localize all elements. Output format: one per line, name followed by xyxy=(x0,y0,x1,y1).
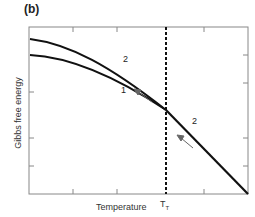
curve-2-label-lower: 2 xyxy=(192,116,197,126)
gibbs-energy-diagram: (b) Gibbs free energy Temperature TT 2 1… xyxy=(0,0,255,217)
curve-2 xyxy=(30,39,166,110)
y-axis-label: Gibbs free energy xyxy=(13,63,23,163)
panel-label: (b) xyxy=(24,2,39,16)
arrow-right-icon xyxy=(177,135,193,148)
top-ticks xyxy=(73,27,204,32)
right-ticks xyxy=(243,55,248,166)
transition-temperature-label: TT xyxy=(160,199,169,211)
arrow-left-icon xyxy=(134,89,152,102)
left-ticks xyxy=(29,92,34,166)
curve-2-continuation xyxy=(166,110,248,194)
diagram-canvas xyxy=(0,0,255,217)
curve-2-label-upper: 2 xyxy=(123,54,128,64)
x-axis-label: Temperature xyxy=(96,202,147,212)
bottom-ticks xyxy=(73,189,204,194)
curve-1-label: 1 xyxy=(121,85,126,95)
tt-sub: T xyxy=(166,205,170,211)
plot-frame xyxy=(29,27,248,194)
